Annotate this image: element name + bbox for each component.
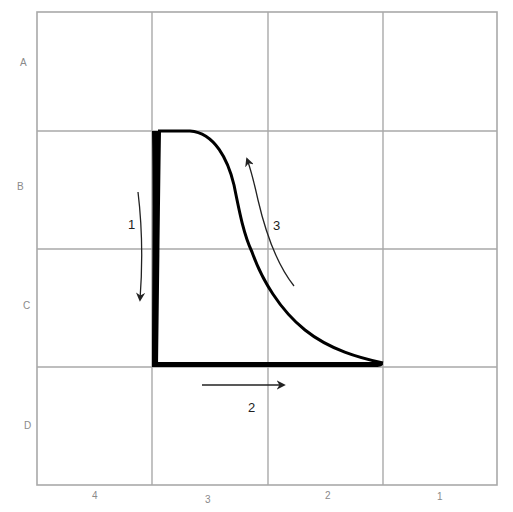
row-label-a: A <box>20 57 27 68</box>
row-label-b: B <box>17 181 24 192</box>
row-labels: A B C D <box>17 57 31 431</box>
arrow-3-icon <box>247 159 294 286</box>
col-label-3: 3 <box>205 494 211 505</box>
column-labels: 4 3 2 1 <box>92 490 443 505</box>
row-label-d: D <box>24 420 31 431</box>
curved-edge <box>158 131 383 363</box>
col-label-4: 4 <box>92 490 98 501</box>
bottom-thick-edge <box>152 362 383 367</box>
arrow-1-label: 1 <box>128 217 135 232</box>
grid <box>37 12 497 485</box>
col-label-2: 2 <box>325 490 331 501</box>
cycle-diagram: A B C D 4 3 2 1 1 2 3 <box>0 0 513 512</box>
col-label-1: 1 <box>437 491 443 502</box>
arrow-1-icon <box>138 192 142 300</box>
row-label-c: C <box>23 300 30 311</box>
arrow-2-label: 2 <box>248 400 255 415</box>
arrow-3-label: 3 <box>273 218 280 233</box>
